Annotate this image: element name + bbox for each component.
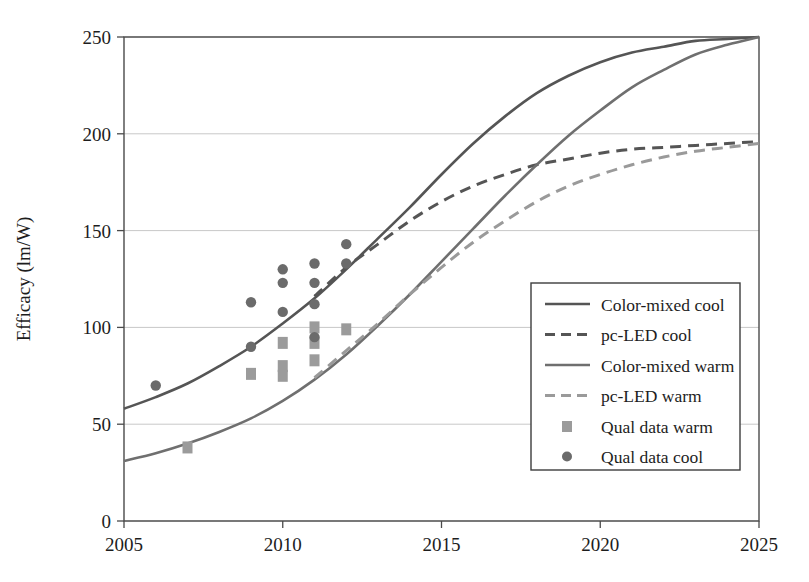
data-point-marker [151,380,161,390]
y-tick-label: 200 [83,124,112,145]
efficacy-projection-chart: 050100150200250 20052010201520202025 Eff… [0,0,809,582]
x-tick-label: 2020 [581,534,619,555]
x-tick-label: 2005 [105,534,143,555]
y-tick-label: 50 [92,414,111,435]
chart-legend: Color-mixed coolpc-LED coolColor-mixed w… [531,283,740,470]
x-tick-label: 2025 [740,534,778,555]
y-tick-label: 100 [83,317,112,338]
data-point-marker [278,370,288,382]
legend-entry-label: Color-mixed warm [601,356,735,376]
data-point-marker [246,368,256,380]
data-point-marker [341,239,351,249]
data-point-marker [278,337,288,349]
legend-entry-label: Color-mixed cool [601,295,725,315]
data-point-marker [309,332,319,342]
data-point-marker [278,278,288,288]
data-point-marker [310,321,320,333]
y-tick-label: 250 [83,27,112,48]
x-tick-label: 2015 [423,534,461,555]
legend-entry-label: pc-LED cool [601,325,692,345]
data-point-marker [246,342,256,352]
y-axis-title: Efficacy (lm/W) [13,217,35,342]
x-tick-label: 2010 [264,534,302,555]
data-point-marker [341,258,351,268]
legend-entry-label: Qual data warm [601,417,713,437]
data-point-marker [309,278,319,288]
data-point-marker [309,258,319,268]
data-point-marker [278,307,288,317]
y-tick-label: 0 [102,511,112,532]
y-tick-label: 150 [83,221,112,242]
data-point-marker [341,323,351,335]
data-point-marker [309,299,319,309]
legend-circle-marker [562,452,572,462]
legend-square-marker [562,421,572,432]
data-point-marker [310,354,320,366]
data-point-marker [183,441,193,453]
chart-canvas: 050100150200250 20052010201520202025 Eff… [0,0,809,582]
data-point-marker [278,264,288,274]
legend-entry-label: pc-LED warm [601,386,702,406]
data-point-marker [246,297,256,307]
legend-entry-label: Qual data cool [601,447,703,467]
